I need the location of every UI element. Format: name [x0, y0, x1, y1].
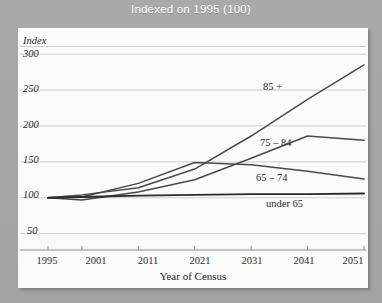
y-tick-100: 100	[23, 189, 39, 200]
x-axis-title: Year of Census	[18, 270, 368, 282]
series-label-85-plus: 85 +	[263, 81, 282, 92]
series-label-65-74: 65 – 74	[256, 172, 288, 183]
series-line-75-84	[48, 136, 364, 200]
series-label-under-65: under 65	[266, 198, 303, 209]
figure-container: Indexed on 1995 (100) Index 300 250 200 …	[0, 0, 382, 303]
series-line-85-	[48, 65, 364, 198]
x-tick-2011: 2011	[128, 255, 168, 266]
x-tick-2031: 2031	[232, 255, 272, 266]
y-tick-300: 300	[23, 48, 39, 59]
x-tick-2021: 2021	[180, 255, 220, 266]
line-chart-svg	[18, 28, 368, 288]
x-tick-1995: 1995	[27, 255, 67, 266]
y-axis-title: Index	[23, 35, 46, 46]
chart-panel: Index 300 250 200 150 100 50 1995 2001 2…	[18, 28, 368, 288]
x-tick-2041: 2041	[284, 255, 324, 266]
y-tick-150: 150	[23, 154, 39, 165]
chart-title: Indexed on 1995 (100)	[0, 3, 382, 15]
y-tick-200: 200	[23, 119, 39, 130]
plot-area	[18, 28, 368, 288]
y-tick-50: 50	[27, 225, 38, 236]
y-tick-250: 250	[23, 83, 39, 94]
x-tick-2001: 2001	[76, 255, 116, 266]
series-label-75-84: 75 – 84	[260, 137, 292, 148]
x-tick-2051: 2051	[333, 255, 373, 266]
